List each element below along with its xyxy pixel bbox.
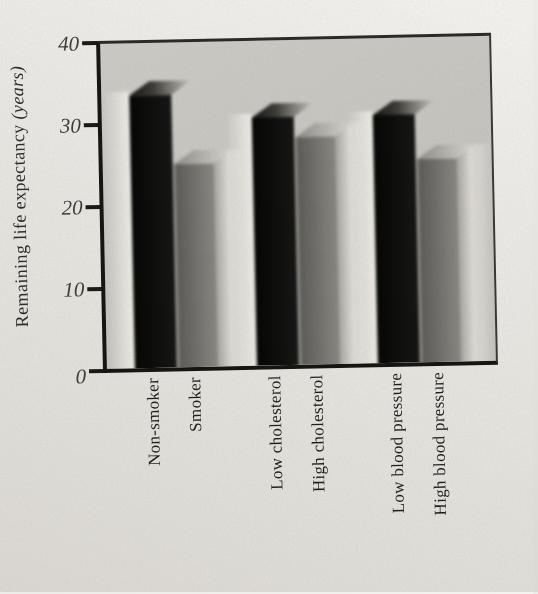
x-axis-label-non-smoker: Non-smoker bbox=[143, 378, 165, 466]
x-axis-labels: Non-smokerSmokerLow cholesterolHigh chol… bbox=[0, 0, 525, 2]
x-axis-label-high-cholesterol: High cholesterol bbox=[307, 374, 329, 492]
x-axis-label-low-cholesterol: Low cholesterol bbox=[265, 375, 287, 490]
y-tick bbox=[84, 123, 99, 127]
bar-high-blood-pressure bbox=[416, 144, 496, 369]
y-tick bbox=[87, 287, 102, 291]
y-axis: 403020100 bbox=[0, 0, 525, 2]
y-tick bbox=[89, 369, 104, 373]
y-tick bbox=[86, 205, 101, 209]
y-tick-label: 10 bbox=[38, 276, 85, 303]
y-tick-label: 0 bbox=[40, 363, 87, 390]
y-tick-label: 30 bbox=[35, 112, 82, 139]
y-axis-title-text: Remaining life expectancy bbox=[8, 124, 32, 327]
plot-area bbox=[96, 33, 498, 373]
y-tick-label: 40 bbox=[33, 30, 80, 57]
x-axis-label-high-blood-pressure: High blood pressure bbox=[428, 372, 451, 516]
x-axis-label-low-blood-pressure: Low blood pressure bbox=[386, 373, 409, 514]
y-tick-label: 20 bbox=[36, 194, 83, 221]
y-axis-title-unit: (years) bbox=[7, 66, 28, 120]
y-axis-title: Remaining life expectancy (years) bbox=[7, 66, 33, 328]
bars-layer bbox=[100, 36, 496, 369]
x-axis-label-smoker: Smoker bbox=[185, 377, 206, 432]
scanned-chart-figure: Remaining life expectancy (years) 403020… bbox=[0, 0, 538, 594]
y-tick bbox=[82, 41, 97, 45]
